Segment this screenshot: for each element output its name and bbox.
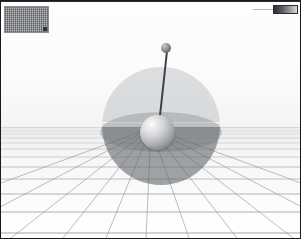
simulation-window [0,0,301,239]
texture-swatch-marker [43,27,47,31]
viewport-top-rule [1,1,300,2]
pendulum-pivot-sphere[interactable] [140,115,175,150]
intensity-ramp-bar[interactable] [273,5,298,14]
gradient-bar-rule [253,9,273,10]
scene-viewport[interactable] [1,1,300,238]
texture-swatch-panel[interactable] [4,6,49,33]
pendulum-bob-sphere[interactable] [161,43,171,53]
